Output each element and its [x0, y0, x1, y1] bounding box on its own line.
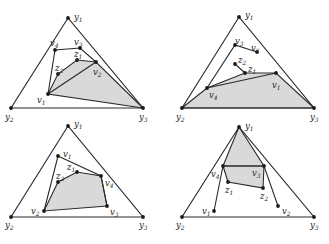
- point-y1: [66, 16, 70, 20]
- point-z2: [233, 62, 237, 66]
- label-v2: v2: [282, 206, 291, 217]
- shaded-region: [44, 172, 107, 211]
- label-v1: v1: [202, 206, 211, 217]
- label-z2: z2: [54, 63, 63, 74]
- label-z2: z2: [55, 171, 64, 182]
- label-y2: y2: [175, 112, 185, 123]
- point-y3: [312, 215, 316, 219]
- panels-group: y1y2y3v1v2v3v4z1z2y1y2y3v1v2v3v4z1z2y1y2…: [4, 10, 319, 231]
- point-z1: [243, 71, 247, 75]
- label-z1: z1: [247, 64, 256, 75]
- label-y2: y2: [175, 220, 185, 231]
- point-v2: [42, 209, 46, 213]
- label-v1: v1: [63, 149, 72, 160]
- label-y3: y3: [138, 112, 148, 123]
- label-y1: y1: [244, 10, 254, 21]
- label-v2: v2: [251, 43, 260, 54]
- label-y2: y2: [4, 112, 14, 123]
- label-v1: v1: [37, 95, 46, 106]
- label-y3: y3: [138, 220, 148, 231]
- label-v3: v3: [74, 37, 83, 48]
- point-y2: [180, 106, 184, 110]
- label-v2: v2: [31, 206, 40, 217]
- panel-bottom-left: y1y2y3v1v2v3v4z1z2: [4, 119, 148, 231]
- point-v3: [262, 164, 266, 168]
- diagram-canvas: y1y2y3v1v2v3v4z1z2y1y2y3v1v2v3v4z1z2y1y2…: [0, 0, 329, 244]
- label-z1: z1: [224, 185, 233, 196]
- point-y1: [237, 125, 241, 129]
- point-v2: [94, 60, 98, 64]
- label-v3: v3: [235, 36, 244, 47]
- point-y3: [141, 215, 145, 219]
- point-v1: [274, 71, 278, 75]
- label-z1: z1: [73, 49, 82, 60]
- label-y3: y3: [309, 112, 319, 123]
- label-y2: y2: [4, 220, 14, 231]
- point-y3: [141, 106, 145, 110]
- point-y2: [180, 215, 184, 219]
- point-y2: [9, 106, 13, 110]
- point-v1: [56, 154, 60, 158]
- point-y1: [66, 124, 70, 128]
- point-y3: [312, 106, 316, 110]
- point-z1: [75, 170, 79, 174]
- point-v2: [276, 204, 280, 208]
- panel-bottom-right: y1y2y3v1v2v3v4z1z2: [175, 121, 319, 231]
- point-v3: [105, 204, 109, 208]
- label-y3: y3: [309, 220, 319, 231]
- panel-top-right: y1y2y3v1v2v3v4z1z2: [175, 10, 319, 123]
- point-y1: [237, 15, 241, 19]
- label-v4: v4: [50, 38, 59, 49]
- label-y1: y1: [73, 119, 83, 130]
- panel-top-left: y1y2y3v1v2v3v4z1z2: [4, 12, 148, 123]
- label-z2: z2: [237, 55, 246, 66]
- label-y1: y1: [244, 121, 254, 132]
- shaded-region: [182, 73, 314, 108]
- point-z2: [261, 186, 265, 190]
- label-v3: v3: [110, 207, 119, 218]
- point-z1: [226, 180, 230, 184]
- point-v1: [46, 92, 50, 96]
- point-v4: [221, 164, 225, 168]
- point-y2: [9, 215, 13, 219]
- point-v1: [212, 209, 216, 213]
- label-z2: z2: [259, 191, 268, 202]
- point-v4: [99, 174, 103, 178]
- label-v4: v4: [211, 169, 220, 180]
- label-y1: y1: [73, 12, 83, 23]
